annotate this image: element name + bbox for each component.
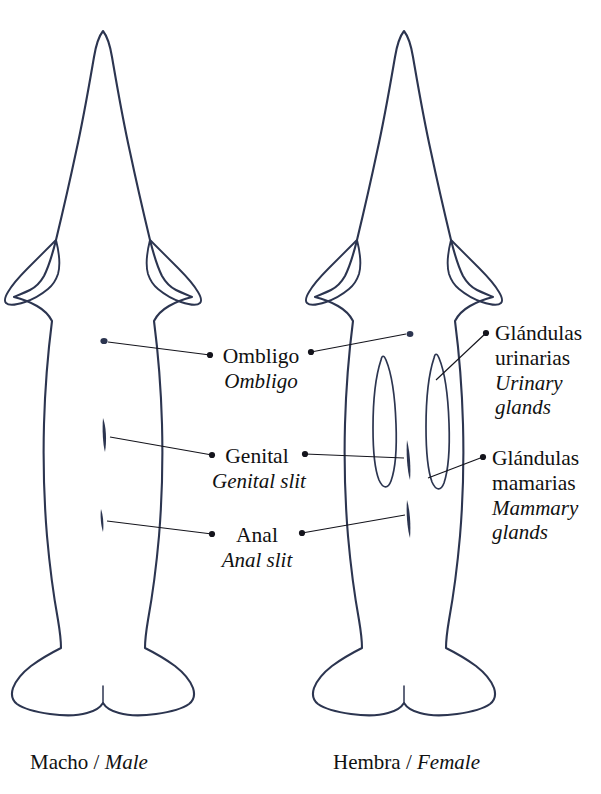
male-right-pectoral-flipper — [147, 240, 201, 305]
label-mammary-glands-en-line1: Mammary — [492, 496, 579, 520]
label-urinary-glands-en-line1: Urinary — [495, 371, 582, 395]
female-anal-slit-mark — [407, 500, 411, 538]
label-umbilicus-en: Ombligo — [216, 369, 306, 393]
male-left-pectoral-flipper — [5, 240, 59, 305]
female-left-mammary-slit — [373, 356, 396, 487]
male-umbilicus-mark — [100, 338, 107, 344]
label-urinary-glands-en-line2: glands — [495, 395, 582, 419]
female-dolphin-drawing — [306, 31, 502, 715]
female-body-outline — [313, 31, 495, 715]
male-anal-slit-mark — [101, 509, 104, 532]
label-genital-en: Genital slit — [212, 469, 302, 493]
caption-male-es: Macho — [30, 750, 88, 774]
label-mammary-glands-en-line2: glands — [492, 520, 579, 544]
label-urinary-glands-es-line2: urinarias — [495, 346, 582, 371]
female-umbilicus-mark — [407, 331, 414, 337]
caption-female-separator: / — [401, 750, 417, 774]
leader-female-genital — [305, 454, 404, 458]
label-urinary-glands-es-line1: Glándulas — [495, 321, 582, 346]
male-body-outline — [12, 31, 194, 715]
male-dolphin-drawing — [5, 31, 201, 715]
label-anal-en: Anal slit — [212, 548, 302, 572]
leader-mammary-glands — [428, 457, 483, 478]
caption-male: Macho / Male — [30, 750, 148, 775]
male-genital-slit-mark — [103, 418, 106, 452]
label-genital-es: Genital — [212, 444, 302, 469]
caption-female: Hembra / Female — [333, 750, 480, 775]
label-umbilicus: Ombligo Ombligo — [216, 344, 306, 393]
female-left-pectoral-flipper — [306, 240, 360, 305]
label-mammary-glands-es-line2: mamarias — [492, 471, 579, 496]
caption-male-en: Male — [105, 750, 148, 774]
leader-female-anal — [302, 515, 405, 533]
female-right-mammary-slit — [426, 354, 449, 489]
label-umbilicus-es: Ombligo — [216, 344, 306, 369]
label-mammary-glands: Glándulas mamarias Mammary glands — [492, 446, 579, 545]
leader-male-genital — [110, 437, 212, 455]
label-genital: Genital Genital slit — [212, 444, 302, 493]
label-urinary-glands: Glándulas urinarias Urinary glands — [495, 321, 582, 420]
leader-female-umbilicus — [311, 334, 406, 352]
leader-dot-mammary-glands — [480, 454, 486, 460]
label-anal: Anal Anal slit — [212, 523, 302, 572]
label-mammary-glands-es-line1: Glándulas — [492, 446, 579, 471]
caption-female-es: Hembra — [333, 750, 401, 774]
anatomy-figure: Ombligo Ombligo Genital Genital slit Ana… — [0, 0, 601, 794]
leader-dot-urinary-glands — [483, 330, 489, 336]
label-anal-es: Anal — [212, 523, 302, 548]
leader-dot-male-umbilicus — [207, 352, 213, 358]
female-genital-slit-mark — [407, 440, 411, 480]
caption-female-en: Female — [417, 750, 480, 774]
female-right-pectoral-flipper — [448, 240, 502, 305]
leader-male-umbilicus — [108, 342, 210, 355]
caption-male-separator: / — [88, 750, 104, 774]
